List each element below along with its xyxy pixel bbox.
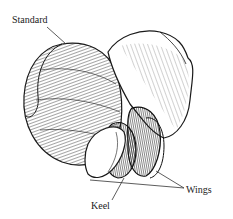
wings-label: Wings bbox=[186, 184, 212, 195]
pea-flower-diagram: Standard Keel Wings bbox=[0, 0, 233, 219]
standard-leader bbox=[47, 27, 66, 44]
keel-leader bbox=[112, 178, 124, 200]
standard-label: Standard bbox=[12, 14, 48, 25]
keel-label: Keel bbox=[91, 200, 110, 211]
wings-leader-right bbox=[156, 171, 184, 188]
wings-leader-left bbox=[90, 180, 184, 188]
